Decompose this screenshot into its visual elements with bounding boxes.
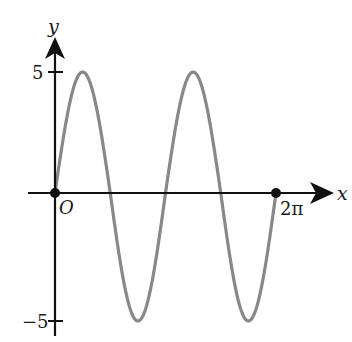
sine-curve: [55, 72, 276, 321]
y-tick-label-5: 5: [32, 62, 43, 83]
chart-canvas: y x 5 −5 O 2π: [0, 0, 352, 342]
x-axis-label: x: [337, 182, 348, 204]
origin-label: O: [59, 197, 74, 218]
y-axis-label: y: [47, 15, 59, 37]
two-pi-point: [271, 188, 281, 198]
y-tick-label-neg5: −5: [22, 311, 49, 332]
x-tick-label-2pi: 2π: [280, 198, 303, 219]
